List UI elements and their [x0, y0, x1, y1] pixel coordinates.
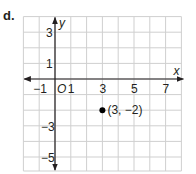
x-tick-label: −1	[33, 82, 47, 96]
x-axis-label: x	[172, 64, 180, 78]
data-point	[99, 107, 105, 113]
y-tick-label: −5	[41, 151, 55, 165]
x-tick-label: 1	[68, 82, 75, 96]
origin-label: O	[57, 82, 66, 96]
y-tick-label: 3	[46, 26, 53, 40]
plotted-points	[99, 107, 105, 113]
data-point-label: (3, −2)	[107, 103, 142, 117]
y-tick-label: −3	[41, 120, 55, 134]
x-tick-label: 5	[131, 82, 138, 96]
x-tick-label: 3	[99, 82, 106, 96]
x-tick-label: 7	[163, 82, 170, 96]
y-axis-label: y	[58, 16, 66, 30]
coordinate-plane: xyO−1135731−3−5(3, −2)	[0, 0, 196, 174]
y-tick-label: 1	[46, 57, 53, 71]
